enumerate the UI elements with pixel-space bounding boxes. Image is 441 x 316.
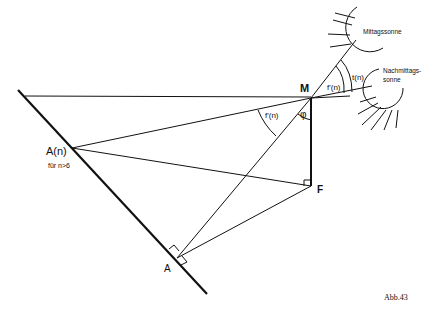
figure-caption: Abb.43 xyxy=(384,293,408,302)
right-angle-A1 xyxy=(169,245,179,251)
afternoon-sun-icon xyxy=(363,69,403,109)
label-sun-afternoon-2: sonne xyxy=(383,76,401,83)
label-An: A(n) xyxy=(46,145,67,157)
horizontal-line xyxy=(25,96,311,97)
label-fprime-right: f'(n) xyxy=(327,83,341,92)
label-tn: t(n) xyxy=(352,73,364,82)
label-A: A xyxy=(164,263,171,274)
label-phi: φ xyxy=(300,109,307,120)
label-fprime-left: f'(n) xyxy=(265,111,279,120)
label-M: M xyxy=(300,82,309,94)
geometry-diagram: M φ F A A(n) für n>6 f'(n) f'(n) t(n) Mi… xyxy=(0,0,441,316)
label-F: F xyxy=(317,184,323,195)
inclined-plane-line xyxy=(18,90,207,294)
label-sun-noon: Mittagssonne xyxy=(363,28,402,36)
right-angle-A2 xyxy=(181,256,187,265)
label-An-note: für n>6 xyxy=(48,162,70,169)
angle-arc-tn xyxy=(341,60,352,92)
line-F-A xyxy=(177,186,311,258)
line-An-F xyxy=(72,148,311,186)
label-sun-afternoon-1: Nachmittags- xyxy=(383,67,421,75)
